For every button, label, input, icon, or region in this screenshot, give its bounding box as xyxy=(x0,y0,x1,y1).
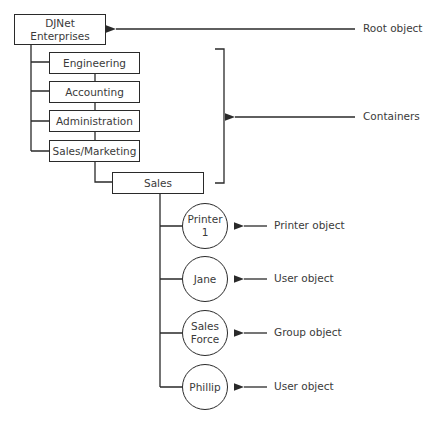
printer-object-node: Printer 1 xyxy=(182,203,228,249)
container-administration: Administration xyxy=(49,110,140,132)
user-object-annotation-jane: User object xyxy=(274,272,334,284)
user-object-annotation-phillip: User object xyxy=(274,380,334,392)
user-object-node-jane: Jane xyxy=(182,256,228,302)
container-sales-marketing: Sales/Marketing xyxy=(49,140,140,162)
root-object-annotation: Root object xyxy=(363,22,422,34)
root-object-box: DJNet Enterprises xyxy=(14,14,106,45)
user-object-node-phillip: Phillip xyxy=(182,364,228,410)
printer-object-annotation: Printer object xyxy=(274,219,345,231)
group-object-node: Sales Force xyxy=(182,310,228,356)
container-sales: Sales xyxy=(112,172,204,194)
container-accounting: Accounting xyxy=(49,81,140,103)
container-engineering: Engineering xyxy=(49,52,140,74)
group-object-annotation: Group object xyxy=(274,326,342,338)
containers-annotation: Containers xyxy=(363,110,420,122)
